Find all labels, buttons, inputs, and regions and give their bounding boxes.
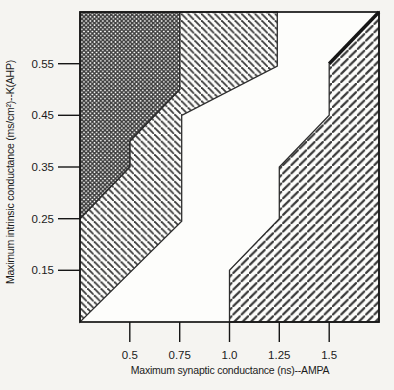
phase-diagram-chart: 0.50.751.01.251.50.550.450.350.250.15 [0, 0, 394, 390]
x-tick-label-1.5: 1.5 [321, 349, 337, 361]
y-tick-label-0.15: 0.15 [32, 264, 54, 276]
x-axis-title: Maximum synaptic conductance (ns)--AMPA [80, 364, 380, 378]
x-tick-label-1.0: 1.0 [222, 349, 238, 361]
x-tick-label-1.25: 1.25 [268, 349, 290, 361]
x-tick-label-0.75: 0.75 [169, 349, 191, 361]
y-axis-title: Maximum intrinsic conductance (ms/cm²)--… [4, 7, 18, 337]
phase-diagram-figure: 0.50.751.01.251.50.550.450.350.250.15 Ma… [0, 0, 394, 390]
y-tick-label-0.25: 0.25 [32, 213, 54, 225]
y-tick-label-0.35: 0.35 [32, 161, 54, 173]
y-tick-label-0.55: 0.55 [32, 58, 54, 70]
y-tick-label-0.45: 0.45 [32, 109, 54, 121]
x-tick-label-0.5: 0.5 [122, 349, 138, 361]
